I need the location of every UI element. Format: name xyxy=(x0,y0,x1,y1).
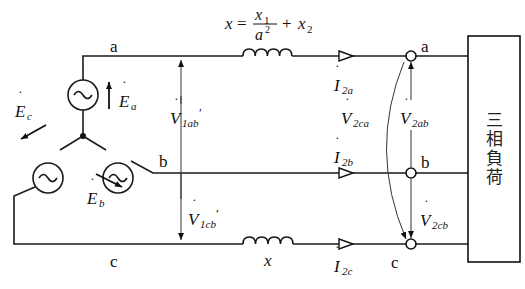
load-label: 三相負荷 xyxy=(482,111,507,187)
terminal-a xyxy=(406,51,416,61)
svg-text:˙: ˙ xyxy=(335,244,340,259)
svg-text:2: 2 xyxy=(307,23,313,35)
label-i2c: I ˙ 2c xyxy=(333,244,353,277)
svg-text:2: 2 xyxy=(265,24,270,35)
v2-voltage-arrows xyxy=(386,62,411,239)
star-sources xyxy=(21,80,133,193)
svg-text:I: I xyxy=(333,76,341,95)
ec-arrow-icon xyxy=(21,125,46,139)
label-line-b-right: b xyxy=(421,153,430,172)
svg-text:˙: ˙ xyxy=(335,63,340,78)
current-c-arrow-icon xyxy=(339,239,353,249)
terminal-c xyxy=(406,239,416,249)
svg-text:x: x xyxy=(297,14,306,33)
svg-text:˙: ˙ xyxy=(122,79,127,94)
svg-text:I: I xyxy=(333,257,341,276)
svg-text:I: I xyxy=(333,148,341,167)
svg-text:˙: ˙ xyxy=(335,135,340,150)
svg-text:c: c xyxy=(27,110,32,122)
eb-arrow-icon xyxy=(96,174,122,187)
svg-text:2a: 2a xyxy=(342,84,354,96)
svg-text:=: = xyxy=(237,14,247,33)
svg-text:˙: ˙ xyxy=(18,89,23,104)
svg-text:1cb: 1cb xyxy=(200,218,216,230)
load-label-container: 三相負荷 xyxy=(468,36,520,262)
svg-text:˙: ˙ xyxy=(90,176,95,191)
svg-text:E: E xyxy=(118,92,130,111)
svg-text:′: ′ xyxy=(216,206,219,221)
svg-text:˙: ˙ xyxy=(192,197,197,212)
reactance-formula: x = x 1 a 2 + x 2 xyxy=(224,6,313,43)
svg-text:E: E xyxy=(86,189,98,208)
label-line-c-right: c xyxy=(391,253,399,272)
svg-text:2b: 2b xyxy=(342,156,354,168)
current-a-arrow-icon xyxy=(339,51,353,61)
line-c xyxy=(14,187,468,244)
svg-text:′: ′ xyxy=(199,105,202,120)
inductor-a-icon xyxy=(243,49,292,56)
svg-text:a: a xyxy=(255,26,263,43)
label-line-a-right: a xyxy=(421,37,429,56)
svg-text:a: a xyxy=(131,100,137,112)
label-v1cb: V ˙ 1cb ′ xyxy=(188,197,219,230)
svg-text:2cb: 2cb xyxy=(432,219,448,231)
label-ec: E ˙ c xyxy=(14,89,32,122)
svg-text:x: x xyxy=(254,6,262,23)
v2ca-arrow-icon xyxy=(386,62,406,239)
label-ea: E ˙ a xyxy=(118,79,137,112)
svg-text:˙: ˙ xyxy=(424,198,429,213)
label-v2ca: V ˙ 2ca xyxy=(341,96,369,129)
label-v1ab: V ˙ 1ab ′ xyxy=(170,96,202,129)
circuit-diagram: x = x 1 a 2 + x 2 a b c a b c E ˙ a E ˙ … xyxy=(0,0,525,289)
label-v2ab: V ˙ 2ab xyxy=(400,96,429,129)
label-v2cb: V ˙ 2cb xyxy=(420,198,448,231)
inductor-c-icon xyxy=(243,237,293,244)
current-b-arrow-icon xyxy=(339,168,353,178)
svg-text:E: E xyxy=(14,102,26,121)
svg-text:b: b xyxy=(99,197,105,209)
svg-text:1ab: 1ab xyxy=(182,117,199,129)
terminal-b xyxy=(406,168,416,178)
svg-text:2c: 2c xyxy=(342,265,353,277)
label-i2b: I ˙ 2b xyxy=(333,135,354,168)
svg-text:2ab: 2ab xyxy=(412,117,429,129)
label-line-a-left: a xyxy=(110,37,118,56)
label-reactance-c: x xyxy=(263,251,272,270)
svg-text:x: x xyxy=(224,14,233,33)
label-line-b-left: b xyxy=(159,152,168,171)
svg-text:+: + xyxy=(282,14,292,33)
svg-text:˙: ˙ xyxy=(174,96,179,111)
svg-text:˙: ˙ xyxy=(345,96,350,111)
label-i2a: I ˙ 2a xyxy=(333,63,354,96)
line-b xyxy=(131,161,468,173)
label-eb: E ˙ b xyxy=(86,176,105,209)
svg-text:2ca: 2ca xyxy=(353,117,369,129)
svg-text:˙: ˙ xyxy=(404,96,409,111)
label-line-c-left: c xyxy=(110,252,118,271)
